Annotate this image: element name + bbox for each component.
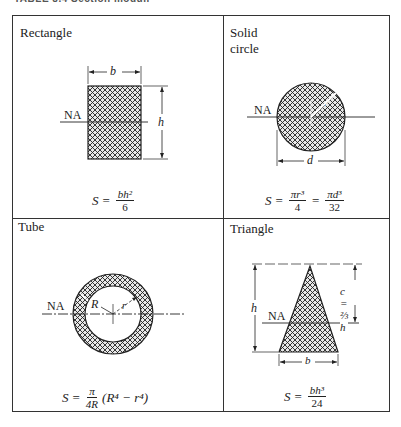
dim-b-label: b bbox=[305, 354, 311, 366]
formula-den: 24 bbox=[312, 397, 323, 409]
dim-h-label: h bbox=[251, 301, 257, 316]
dim-c-label: c = ⅔ h bbox=[340, 285, 348, 333]
neutral-axis-label: NA bbox=[268, 309, 285, 324]
triangle-diagram bbox=[0, 0, 401, 427]
formula-lhs: S bbox=[284, 389, 291, 405]
triangle-formula: S = bh³24 bbox=[284, 384, 328, 409]
formula-eq: = bbox=[295, 389, 302, 405]
formula-num: bh³ bbox=[308, 384, 326, 397]
